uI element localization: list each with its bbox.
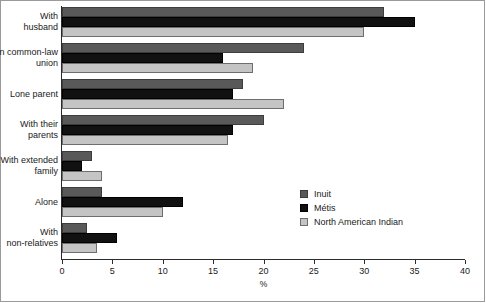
category-label: Withhusband: [0, 11, 58, 33]
bar-nai: [62, 99, 284, 109]
category-label: In common-lawunion: [0, 47, 58, 69]
category-label-line: union: [0, 58, 58, 69]
legend-label: Métis: [314, 201, 336, 215]
x-axis-tick: [364, 260, 365, 264]
x-axis-tick: [112, 260, 113, 264]
bar-inuit: [62, 43, 304, 53]
category-label-line: Alone: [0, 197, 58, 208]
legend-item-north-american-indian: North American Indian: [300, 215, 403, 229]
legend-label: North American Indian: [314, 215, 403, 229]
bar-chart: 0510152025303540 % WithhusbandIn common-…: [0, 0, 486, 303]
category-label-line: Lone parent: [0, 89, 58, 100]
x-axis-tick-label: 30: [359, 266, 369, 276]
bar-nai: [62, 27, 364, 37]
bar-inuit: [62, 223, 87, 233]
x-axis-tick-label: 0: [59, 266, 64, 276]
x-axis-tick-label: 35: [410, 266, 420, 276]
bar-inuit: [62, 115, 264, 125]
bar-inuit: [62, 151, 92, 161]
x-axis-tick-label: 25: [309, 266, 319, 276]
category-label-line: non-relatives: [0, 238, 58, 249]
category-label: Alone: [0, 197, 58, 208]
x-axis-title: %: [260, 279, 268, 289]
bar-inuit: [62, 187, 102, 197]
bar-inuit: [62, 79, 243, 89]
x-axis-tick-label: 20: [258, 266, 268, 276]
x-axis-tick: [465, 260, 466, 264]
x-axis-tick-label: 15: [208, 266, 218, 276]
bar-metis: [62, 53, 223, 63]
bar-nai: [62, 63, 253, 73]
category-label-line: parents: [0, 130, 58, 141]
bar-nai: [62, 243, 97, 253]
x-axis-tick: [264, 260, 265, 264]
x-axis-tick: [314, 260, 315, 264]
x-axis-tick: [415, 260, 416, 264]
category-label-line: family: [0, 166, 58, 177]
category-label: With extendedfamily: [0, 155, 58, 177]
category-label: With theirparents: [0, 119, 58, 141]
legend-item-metis: Métis: [300, 201, 403, 215]
x-axis-tick-label: 5: [110, 266, 115, 276]
category-label-line: With: [0, 227, 58, 238]
bar-metis: [62, 89, 233, 99]
legend-item-inuit: Inuit: [300, 187, 403, 201]
bar-metis: [62, 197, 183, 207]
legend-swatch-icon: [300, 218, 308, 226]
x-axis-tick: [213, 260, 214, 264]
x-axis-tick: [62, 260, 63, 264]
x-axis-tick-label: 10: [158, 266, 168, 276]
category-label-line: With their: [0, 119, 58, 130]
category-label: Withnon-relatives: [0, 227, 58, 249]
legend-label: Inuit: [314, 187, 331, 201]
bar-nai: [62, 207, 163, 217]
bar-inuit: [62, 7, 384, 17]
category-label-line: With: [0, 11, 58, 22]
bar-nai: [62, 135, 228, 145]
bar-metis: [62, 17, 415, 27]
chart-legend: Inuit Métis North American Indian: [300, 187, 403, 229]
bar-metis: [62, 161, 82, 171]
bar-metis: [62, 125, 233, 135]
x-axis-tick-label: 40: [460, 266, 470, 276]
x-axis-tick: [163, 260, 164, 264]
category-label: Lone parent: [0, 89, 58, 100]
category-label-line: With extended: [0, 155, 58, 166]
category-label-line: In common-law: [0, 47, 58, 58]
bar-nai: [62, 171, 102, 181]
legend-swatch-icon: [300, 204, 308, 212]
bar-metis: [62, 233, 117, 243]
legend-swatch-icon: [300, 190, 308, 198]
category-label-line: husband: [0, 22, 58, 33]
